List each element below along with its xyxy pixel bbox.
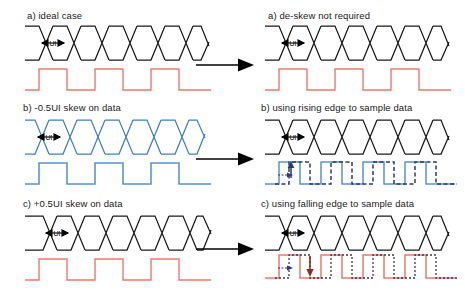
clock-overlay-falling-edge-sample <box>265 248 460 284</box>
eye-diagram-ideal-case: UI <box>25 22 215 66</box>
clock-solid-red <box>265 255 455 278</box>
panel-caption-falling-edge-sample: c) using falling edge to sample data <box>261 198 414 209</box>
panel-caption-minus-half-ui: b) -0.5UI skew on data <box>23 102 121 113</box>
eye-diagram-rising-edge-sample: UI <box>265 116 455 160</box>
ui-label-rising-edge-sample: UI <box>290 134 297 141</box>
eye-diagram-skew-figure: a) ideal case UI b) -0.5UI skew <box>0 0 465 290</box>
clock-dotted-dark <box>275 255 457 278</box>
clock-dashed-navy <box>275 162 457 184</box>
ui-label-falling-edge-sample: UI <box>290 230 297 237</box>
panel-caption-plus-half-ui: c) +0.5UI skew on data <box>23 198 123 209</box>
connector-arrow-a <box>196 56 258 74</box>
connector-arrow-b <box>196 150 258 168</box>
panel-caption-rising-edge-sample: b) using rising edge to sample data <box>261 102 412 113</box>
eye-diagram-de-skew-not-required: UI <box>265 22 455 66</box>
clock-overlay-rising-edge-sample <box>265 156 460 190</box>
clock-waveform-plus-half-ui <box>25 254 215 284</box>
clock-waveform-minus-half-ui <box>25 158 215 188</box>
clock-waveform-ideal-case <box>25 64 215 94</box>
eye-diagram-minus-half-ui: UI <box>25 116 215 160</box>
skew-shift-arrow-falling <box>278 266 293 271</box>
panel-caption-de-skew-not-required: a) de-skew not required <box>268 10 370 21</box>
ui-label-minus-half-ui: UI <box>46 134 53 141</box>
eye-diagram-plus-half-ui: UI <box>25 212 215 256</box>
ui-label-plus-half-ui: UI <box>54 230 61 237</box>
clock-waveform-de-skew-not-required <box>265 64 455 94</box>
connector-arrow-c <box>196 240 258 258</box>
falling-edge-sample-arrow <box>306 256 313 277</box>
ui-label-ideal-case: UI <box>50 40 57 47</box>
ui-label-de-skew-not-required: UI <box>290 40 297 47</box>
clock-solid-blue <box>265 162 455 184</box>
panel-caption-ideal-case: a) ideal case <box>27 10 82 21</box>
